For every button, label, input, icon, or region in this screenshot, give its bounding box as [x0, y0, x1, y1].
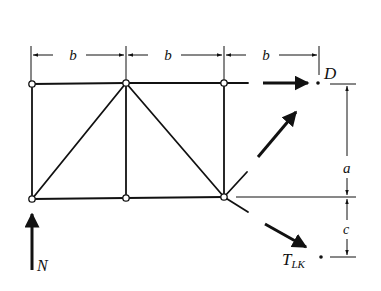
- joint-bottom-right: [221, 194, 227, 200]
- label-point-d: D: [323, 64, 337, 83]
- joint-bottom-middle: [123, 195, 129, 201]
- truss-joints: [29, 80, 227, 202]
- joint-top-middle: [123, 80, 129, 86]
- span-label-2: b: [164, 47, 172, 63]
- joint-bottom-left: [29, 196, 35, 202]
- label-dimension-a: a: [343, 160, 351, 176]
- force-arrow-diagonal: [258, 112, 296, 157]
- truss-diagram: b b b: [0, 0, 381, 291]
- point-d-dot: [316, 81, 320, 85]
- label-reaction-n: N: [36, 257, 49, 274]
- joint-top-left: [29, 81, 35, 87]
- point-tlk-dot: [319, 255, 323, 259]
- label-force-t-subscript: LK: [290, 258, 305, 270]
- force-arrow-tlk: [265, 224, 306, 247]
- span-label-1: b: [69, 47, 77, 63]
- force-arrows: [32, 83, 308, 270]
- label-force-t: TLK: [282, 250, 306, 270]
- joint-top-right: [221, 80, 227, 86]
- truss-members: [32, 83, 248, 212]
- span-label-3: b: [262, 47, 270, 63]
- label-dimension-c: c: [343, 222, 350, 237]
